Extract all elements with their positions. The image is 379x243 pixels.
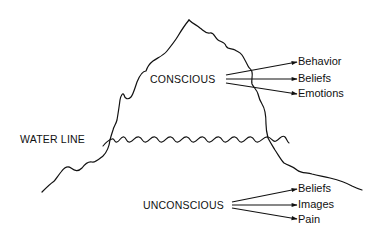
- conscious-item-emotions: Emotions: [298, 88, 344, 99]
- conscious-item-behavior: Behavior: [298, 56, 341, 67]
- water-line-wave: [103, 136, 289, 146]
- unconscious-item-images: Images: [298, 199, 334, 210]
- arrow-conscious-behavior: [226, 62, 297, 75]
- iceberg-diagram: CONSCIOUS Behavior Beliefs Emotions WATE…: [0, 0, 379, 243]
- unconscious-item-beliefs: Beliefs: [298, 183, 331, 194]
- conscious-item-beliefs: Beliefs: [298, 73, 331, 84]
- conscious-label: CONSCIOUS: [150, 74, 215, 85]
- iceberg-right-slope: [189, 20, 362, 190]
- arrow-conscious-emotions: [226, 83, 297, 94]
- iceberg-left-slope: [42, 20, 189, 192]
- unconscious-label: UNCONSCIOUS: [143, 200, 224, 211]
- arrow-unconscious-pain: [232, 208, 297, 219]
- arrow-unconscious-beliefs: [232, 189, 297, 202]
- unconscious-item-pain: Pain: [298, 214, 320, 225]
- water-line-label: WATER LINE: [20, 134, 85, 145]
